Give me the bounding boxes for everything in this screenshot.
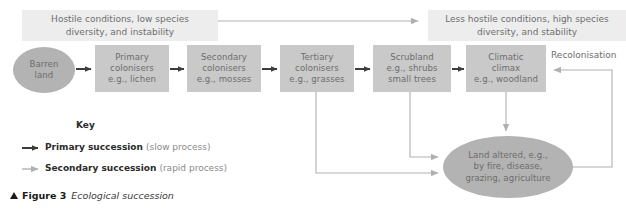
node-scrubland[interactable]: Scrubland e.g., shrubs small trees [373,45,451,92]
banner-less-hostile-conditions: Less hostile conditions, high species di… [428,10,626,41]
label-recolonisation: Recolonisation [551,50,617,61]
key-item-primary-note: (slow process) [146,142,211,152]
node-land-altered[interactable]: Land altered, e.g., by fire, disease, gr… [443,136,573,198]
arrow-scrubland-to-land-altered [410,92,438,157]
triangle-up-icon [10,192,18,199]
arrow-tertiary-to-land-altered [316,92,438,173]
figure-caption: Figure 3 Ecological succession [10,190,174,201]
figure-title: Ecological succession [71,190,174,201]
node-secondary-colonisers[interactable]: Secondary colonisers e.g., mosses [187,45,261,92]
key-title: Key [76,120,95,130]
ecological-succession-figure: Hostile conditions, low species diversit… [0,0,626,212]
node-primary-colonisers[interactable]: Primary colonisers e.g., lichen [95,45,169,92]
node-tertiary-colonisers[interactable]: Tertiary colonisers e.g., grasses [280,45,354,92]
key-item-secondary-label: Secondary succession [45,163,156,173]
key-item-secondary-note: (rapid process) [159,163,227,173]
node-climatic-climax[interactable]: Climatic climax e.g., woodland [466,45,546,92]
figure-number: Figure 3 [22,190,66,201]
key-item-primary-label: Primary succession [45,142,143,152]
key-arrow-glyphs [22,148,38,169]
key-item-primary-succession: Primary succession (slow process) [45,142,210,152]
key-item-secondary-succession: Secondary succession (rapid process) [45,163,227,173]
banner-hostile-conditions: Hostile conditions, low species diversit… [22,10,218,41]
node-barren-land[interactable]: Barren land [13,47,75,93]
